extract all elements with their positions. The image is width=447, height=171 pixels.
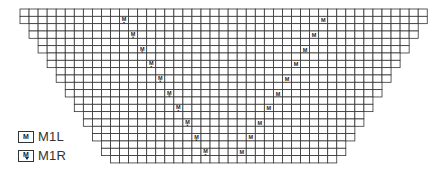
grid-cell — [292, 141, 301, 148]
grid-cell — [201, 38, 210, 45]
grid-cell — [237, 119, 246, 126]
grid-cell — [364, 82, 373, 89]
grid-cell — [310, 24, 319, 31]
grid-cell — [301, 90, 310, 97]
grid-cell — [391, 60, 400, 67]
grid-cell — [192, 148, 201, 155]
grid-cell — [147, 148, 156, 155]
grid-cell — [355, 53, 364, 60]
grid-cell — [74, 16, 83, 23]
grid-cell — [264, 24, 273, 31]
grid-cell — [83, 75, 92, 82]
grid-cell — [129, 97, 138, 104]
grid-cell — [264, 90, 273, 97]
grid-cell — [165, 24, 174, 31]
grid-cell — [301, 82, 310, 89]
grid-cell — [165, 9, 174, 16]
grid-cell — [129, 53, 138, 60]
grid-cell — [255, 38, 264, 45]
grid-cell — [165, 119, 174, 126]
grid-cell — [165, 148, 174, 155]
grid-cell — [355, 97, 364, 104]
grid-cell — [282, 112, 291, 119]
grid-cell — [156, 126, 165, 133]
grid-cell — [111, 38, 120, 45]
grid-cell — [301, 134, 310, 141]
grid-cell — [237, 9, 246, 16]
grid-cell — [156, 38, 165, 45]
grid-cell — [337, 16, 346, 23]
grid-cell — [111, 46, 120, 53]
grid-cell — [373, 38, 382, 45]
grid-cell — [156, 16, 165, 23]
grid-cell — [92, 119, 101, 126]
grid-cell — [165, 104, 174, 111]
grid-cell — [111, 31, 120, 38]
grid-cell — [264, 68, 273, 75]
grid-cell — [310, 53, 319, 60]
grid-cell — [129, 119, 138, 126]
grid-cell — [183, 156, 192, 163]
grid-cell — [83, 90, 92, 97]
grid-cell — [301, 104, 310, 111]
grid-cell — [201, 53, 210, 60]
grid-cell — [391, 24, 400, 31]
grid-cell — [111, 24, 120, 31]
grid — [20, 9, 427, 163]
grid-cell — [38, 31, 47, 38]
grid-cell — [228, 141, 237, 148]
grid-cell — [237, 90, 246, 97]
grid-cell — [156, 134, 165, 141]
grid-cell — [101, 75, 110, 82]
m1l-mark-icon: M — [285, 76, 290, 82]
grid-cell — [400, 16, 409, 23]
grid-cell — [120, 53, 129, 60]
grid-cell — [120, 38, 129, 45]
grid-cell — [20, 9, 29, 16]
grid-cell — [129, 141, 138, 148]
grid-cell — [319, 112, 328, 119]
grid-cell — [111, 60, 120, 67]
grid-cell — [201, 90, 210, 97]
grid-cell — [92, 112, 101, 119]
grid-cell — [47, 38, 56, 45]
legend-item-m1r: M M1R — [18, 147, 66, 164]
grid-cell — [391, 53, 400, 60]
grid-cell — [210, 82, 219, 89]
grid-cell — [264, 126, 273, 133]
grid-cell — [310, 75, 319, 82]
grid-cell — [255, 16, 264, 23]
grid-cell — [74, 24, 83, 31]
grid-cell — [246, 126, 255, 133]
grid-cell — [219, 9, 228, 16]
grid-cell — [391, 16, 400, 23]
grid-cell — [301, 53, 310, 60]
grid-cell — [228, 24, 237, 31]
grid-cell — [210, 148, 219, 155]
grid-cell — [101, 104, 110, 111]
grid-cell — [219, 60, 228, 67]
grid-cell — [92, 31, 101, 38]
grid-cell — [65, 9, 74, 16]
grid-cell — [337, 148, 346, 155]
grid-cell — [165, 75, 174, 82]
grid-cell — [83, 97, 92, 104]
grid-cell — [301, 60, 310, 67]
legend: M M1L M M1R — [18, 128, 66, 166]
grid-cell — [255, 148, 264, 155]
grid-cell — [92, 134, 101, 141]
grid-cell — [156, 46, 165, 53]
grid-cell — [201, 75, 210, 82]
grid-cell — [147, 82, 156, 89]
grid-cell — [138, 156, 147, 163]
grid-cell — [328, 141, 337, 148]
grid-cell — [255, 68, 264, 75]
grid-cell — [156, 112, 165, 119]
grid-cell — [129, 24, 138, 31]
grid-cell — [328, 90, 337, 97]
grid-cell — [219, 90, 228, 97]
grid-cell — [192, 60, 201, 67]
grid-cell — [129, 38, 138, 45]
m1l-mark-icon: M — [239, 149, 244, 155]
grid-cell — [29, 31, 38, 38]
